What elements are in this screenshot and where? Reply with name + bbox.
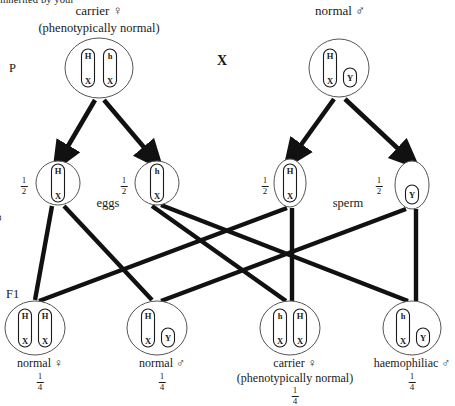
chromosome-label-bottom: X — [22, 336, 29, 346]
f1-label-normal-female: normal ♀ — [17, 357, 63, 369]
chromosome-label-bottom: X — [154, 191, 161, 201]
father-cell: HXY — [309, 39, 369, 97]
line-sperm2-to-f1-normal-male — [161, 209, 406, 301]
chromosome-body — [104, 49, 117, 87]
chromosome: HX — [324, 49, 337, 87]
mother-title: carrier ♀ — [76, 4, 123, 17]
chromosome: Y — [406, 185, 419, 204]
chromosome: HX — [39, 309, 52, 347]
line-egg1-to-f1-normal-male — [64, 206, 152, 300]
chromosome-body — [417, 328, 430, 347]
line-sperm1-to-f1-normal-female — [39, 208, 287, 301]
chromosome: HX — [52, 164, 65, 202]
chromosome: hX — [151, 164, 164, 202]
f1-carrier-female-cell: hXHX — [260, 301, 320, 355]
arrow-father-to-sperm2 — [345, 99, 408, 158]
fraction-f1-haemophiliac-male: 1 4 — [409, 372, 416, 392]
chromosome-label-bottom: X — [145, 336, 152, 346]
cross-symbol: X — [217, 54, 227, 68]
cell-membrane — [383, 301, 441, 355]
chromosome-body — [324, 49, 337, 87]
fraction-f1-normal-female: 1 4 — [37, 372, 44, 392]
chromosome-body — [151, 164, 164, 202]
chromosome-body — [39, 309, 52, 347]
f1-label-haemophiliac-male: haemophiliac ♂ — [374, 357, 451, 369]
chromosome-body — [397, 309, 410, 347]
chromosome-body — [294, 309, 307, 347]
chromosome-label-bottom: Y — [409, 190, 415, 200]
allele-label-top: H — [22, 311, 29, 321]
chromosome-label-bottom: X — [85, 76, 92, 86]
stage-label-parent: P — [9, 62, 16, 75]
chromosome: HX — [142, 309, 155, 347]
allele-label-top: h — [401, 311, 406, 321]
cell-membrane — [395, 161, 429, 209]
mother-cell: HXhX — [65, 38, 133, 98]
chromosome: Y — [344, 68, 357, 87]
f1-label-normal-male: normal ♂ — [139, 357, 185, 369]
f1-sublabel-carrier-female: (phenotypically normal) — [237, 372, 353, 384]
fraction-sperm-2: 1 2 — [376, 176, 383, 196]
allele-label-top: H — [327, 51, 334, 61]
chromosome-label-bottom: Y — [347, 73, 353, 83]
chromosome-body — [19, 309, 32, 347]
chromosome-body — [52, 164, 65, 202]
cell-membrane — [36, 161, 80, 205]
pool-label-eggs: eggs — [97, 197, 120, 210]
chromosome: hX — [104, 49, 117, 87]
mother-subtitle: (phenotypically normal) — [38, 22, 159, 35]
chromosome-label-bottom: X — [297, 336, 304, 346]
line-egg2-to-f1-carrier-female — [152, 206, 286, 301]
allele-label-top: H — [85, 51, 92, 61]
chromosome: hX — [274, 309, 287, 347]
arrow-father-to-sperm1 — [293, 99, 334, 156]
chromosome-body — [162, 328, 175, 347]
line-egg2-to-f1-haemophiliac-male — [161, 205, 408, 301]
chromosome-label-bottom: X — [107, 76, 114, 86]
allele-label-top: H — [145, 311, 152, 321]
fraction-f1-normal-male: 1 4 — [159, 372, 166, 392]
chromosome: HX — [82, 49, 95, 87]
stage-label-f1: F1 — [6, 288, 19, 301]
chromosome: HX — [19, 309, 32, 347]
chromosome-label-bottom: Y — [420, 333, 426, 343]
chromosome: Y — [417, 328, 430, 347]
fraction-egg-1: 1 2 — [21, 176, 28, 196]
allele-label-top: h — [155, 166, 160, 176]
egg-H-X-cell: HX — [36, 161, 80, 205]
chromosome-label-bottom: X — [277, 336, 284, 346]
chromosome-body — [274, 309, 287, 347]
stage-label-gametes: gametes — [0, 178, 2, 221]
chromosome: HX — [294, 309, 307, 347]
chromosome: Y — [162, 328, 175, 347]
allele-label-top: H — [42, 311, 49, 321]
allele-label-top: h — [278, 311, 283, 321]
allele-label-top: H — [55, 166, 62, 176]
chromosome-body — [142, 309, 155, 347]
chromosome-label-bottom: X — [400, 336, 407, 346]
cell-membrane — [260, 301, 320, 355]
chromosome-body — [406, 185, 419, 204]
allele-label-top: H — [297, 311, 304, 321]
fraction-sperm-1: 1 2 — [262, 176, 269, 196]
chromosome-label-bottom: X — [327, 76, 334, 86]
chromosome: hX — [397, 309, 410, 347]
arrow-mother-to-egg2 — [104, 100, 153, 158]
chromosome-label-bottom: X — [287, 191, 294, 201]
cell-membrane — [5, 301, 65, 355]
chromosome-body — [284, 164, 297, 202]
line-egg1-to-f1-normal-female — [35, 206, 52, 300]
fraction-egg-2: 1 2 — [121, 176, 128, 196]
sperm-H-X-cell: HX — [274, 159, 306, 207]
cell-membrane — [127, 301, 187, 355]
chromosome-body — [344, 68, 357, 87]
egg-h-X-cell: hX — [135, 161, 179, 205]
allele-label-top: H — [287, 166, 294, 176]
sperm-Y-cell: Y — [395, 161, 429, 209]
f1-label-carrier-female: carrier ♀ — [273, 357, 316, 369]
father-title: normal ♂ — [315, 4, 365, 17]
f1-normal-male-cell: HXY — [127, 301, 187, 355]
